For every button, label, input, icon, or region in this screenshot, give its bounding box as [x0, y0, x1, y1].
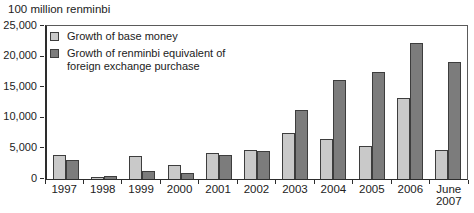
bar-base-money: [168, 165, 181, 179]
x-axis-labels: 1997199819992000200120022003200420052006…: [45, 183, 468, 207]
bar-fx-purchase: [333, 80, 346, 179]
x-axis-label: 2004: [314, 183, 352, 207]
unit-label: 100 million renminbi: [8, 3, 110, 15]
x-axis-label: 2003: [276, 183, 314, 207]
bar-base-money: [320, 139, 333, 179]
x-axis-label: 1997: [45, 183, 83, 207]
bar-fx-purchase: [219, 155, 232, 179]
legend-item-fx-purchase: Growth of renminbi equivalent of foreign…: [50, 47, 229, 74]
bar-fx-purchase: [66, 160, 79, 179]
bar-base-money: [53, 155, 66, 179]
bar-group-2005: [353, 26, 391, 179]
bar-fx-purchase: [295, 110, 308, 179]
x-axis-label: 2005: [353, 183, 391, 207]
bar-base-money: [91, 177, 104, 179]
y-axis-tick-label: 20,000: [0, 49, 37, 62]
x-axis-label: 1999: [122, 183, 160, 207]
bar-base-money: [435, 150, 448, 179]
bar-fx-purchase: [257, 151, 270, 179]
bar-base-money: [206, 153, 219, 179]
y-axis-tick-label: 25,000: [0, 19, 37, 32]
bar-group-2002: [238, 26, 276, 179]
bar-group-2006: [391, 26, 429, 179]
y-axis-tick-mark: [40, 147, 44, 148]
legend-swatch-fx-purchase: [50, 49, 59, 58]
y-axis-tick-label: 15,000: [0, 80, 37, 93]
legend-label-fx-purchase: Growth of renminbi equivalent of foreign…: [67, 47, 229, 74]
y-axis-tick-label: 10,000: [0, 110, 37, 123]
bar-fx-purchase: [448, 62, 461, 179]
legend-item-base-money: Growth of base money: [50, 30, 229, 44]
bar-group-2004: [314, 26, 352, 179]
bar-fx-purchase: [372, 72, 385, 179]
legend-label-base-money: Growth of base money: [67, 30, 178, 44]
y-axis-tick-mark: [40, 117, 44, 118]
bar-fx-purchase: [181, 173, 194, 179]
bar-fx-purchase: [104, 176, 117, 179]
legend-swatch-base-money: [50, 32, 59, 41]
x-axis-label: June 2007: [430, 183, 468, 207]
bar-base-money: [397, 98, 410, 179]
bar-base-money: [244, 150, 257, 179]
bar-fx-purchase: [142, 171, 155, 179]
x-axis-label: 1998: [83, 183, 121, 207]
x-axis-label: 2002: [237, 183, 275, 207]
x-axis-label: 2006: [391, 183, 429, 207]
x-axis-label: 2001: [199, 183, 237, 207]
bar-fx-purchase: [410, 43, 423, 179]
bar-group-2003: [276, 26, 314, 179]
y-axis-tick-label: 0: [0, 172, 37, 185]
y-axis-tick-mark: [40, 86, 44, 87]
bar-base-money: [282, 133, 295, 179]
bar-base-money: [359, 146, 372, 179]
y-axis-tick-mark: [40, 25, 44, 26]
bar-group-june-2007: [429, 26, 467, 179]
y-axis-tick-mark: [40, 56, 44, 57]
bar-base-money: [129, 156, 142, 179]
chart-legend: Growth of base money Growth of renminbi …: [50, 30, 229, 74]
y-axis-tick-mark: [40, 178, 44, 179]
y-axis-tick-label: 5,000: [0, 141, 37, 154]
x-axis-label: 2000: [160, 183, 198, 207]
chart-figure: 100 million renminbi 05,00010,00015,0002…: [0, 0, 474, 213]
